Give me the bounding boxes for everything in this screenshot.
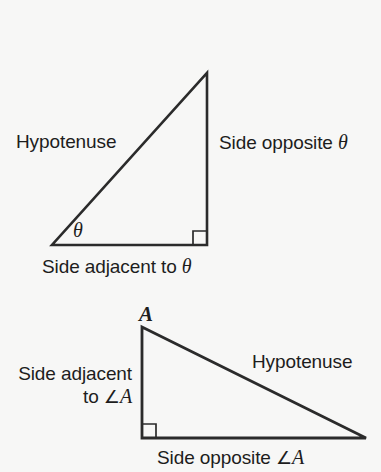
theta-symbol: θ (182, 255, 192, 277)
angle-symbol: ∠ (276, 447, 292, 468)
angle-a-hypotenuse-label: Hypotenuse (252, 351, 352, 373)
angle-a-opposite-side-label: Side opposite ∠A (157, 446, 304, 469)
theta-angle-mark-label: θ (73, 219, 83, 241)
vertex-a-reference: A (120, 385, 132, 407)
angle-a-adjacent-line2: to (83, 386, 104, 407)
theta-adjacent-text: Side adjacent to (42, 256, 182, 277)
angle-symbol: ∠ (104, 386, 120, 407)
theta-opposite-text: Side opposite (219, 132, 338, 153)
angle-a-opposite-text: Side opposite (157, 447, 276, 468)
theta-opposite-side-label: Side opposite θ (219, 131, 348, 154)
angle-a-triangle-shape (142, 327, 366, 438)
angle-a-right-angle-marker (142, 424, 156, 438)
angle-a-adjacent-side-label: Side adjacentto ∠A (4, 362, 132, 408)
vertex-a-reference: A (292, 446, 304, 468)
vertex-a-label: A (139, 302, 153, 327)
angle-a-adjacent-line1: Side adjacent (18, 363, 132, 384)
trigonometry-figure: Hypotenuse Side opposite θ Side adjacent… (0, 0, 381, 472)
theta-symbol: θ (338, 131, 348, 153)
theta-hypotenuse-label: Hypotenuse (16, 131, 116, 153)
theta-right-angle-marker (193, 231, 207, 245)
theta-adjacent-side-label: Side adjacent to θ (42, 255, 192, 278)
angle-a-triangle-outline (142, 327, 366, 438)
